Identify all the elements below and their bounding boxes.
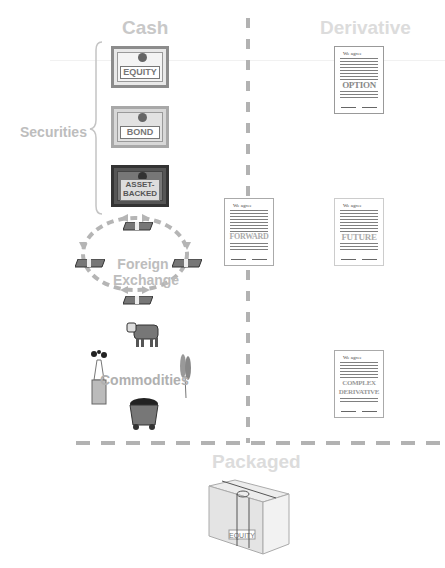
option-contract-icon: We agree OPTION: [334, 46, 384, 114]
foreign-exchange-label: Foreign Exchange: [113, 256, 173, 288]
securities-label: Securities: [20, 124, 87, 140]
cash-bundle-icon-right: [172, 259, 200, 268]
cash-bundle-icon-top: [123, 222, 151, 231]
future-contract-icon: We agree FUTURE: [334, 198, 384, 266]
packaged-box-icon: EQUITY: [207, 478, 291, 558]
complex-derivative-contract-icon: We agree COMPLEXDERIVATIVE: [334, 350, 384, 418]
coal-cart-icon: [128, 397, 160, 431]
equity-certificate-icon: EQUITY: [111, 46, 169, 88]
section-title-derivative: Derivative: [320, 17, 411, 39]
svg-text:EQUITY: EQUITY: [229, 532, 255, 540]
cow-icon: [126, 320, 162, 350]
commodities-label: Commodities: [100, 372, 189, 388]
forward-contract-icon: We agree FORWARD: [224, 198, 274, 266]
section-title-packaged: Packaged: [212, 451, 301, 473]
bond-certificate-icon: BOND: [111, 106, 169, 148]
cash-bundle-icon-bottom: [123, 296, 151, 305]
brace-icon: [88, 40, 104, 216]
asset-backed-certificate-icon: ASSET-BACKED: [111, 165, 169, 207]
horizontal-divider-dashed: [76, 441, 445, 445]
cash-bundle-icon-left: [75, 259, 103, 268]
section-title-cash: Cash: [122, 17, 168, 39]
